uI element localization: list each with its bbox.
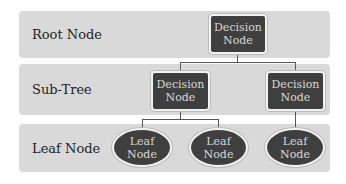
node-label: Decision Node xyxy=(157,78,205,104)
node-label: Decision Node xyxy=(214,21,262,47)
subtree-decision-node-left: Decision Node xyxy=(151,71,210,111)
subtree-decision-node-right: Decision Node xyxy=(266,71,325,111)
node-label: Leaf Node xyxy=(280,135,310,161)
leaf-node-1: Leaf Node xyxy=(112,128,172,167)
root-decision-node: Decision Node xyxy=(209,14,267,54)
node-label: Leaf Node xyxy=(204,135,234,161)
leaf-level-label: Leaf Node xyxy=(32,141,100,156)
connector xyxy=(142,119,143,128)
subtree-level-label: Sub-Tree xyxy=(32,82,92,97)
connector xyxy=(218,119,219,128)
root-level-label: Root Node xyxy=(32,27,102,42)
connector xyxy=(237,54,238,62)
connector xyxy=(142,119,219,120)
connector xyxy=(180,111,181,119)
connector xyxy=(295,62,296,71)
connector xyxy=(180,62,181,71)
leaf-node-2: Leaf Node xyxy=(189,128,248,167)
connector xyxy=(295,111,296,128)
node-label: Decision Node xyxy=(272,78,320,104)
node-label: Leaf Node xyxy=(127,135,157,161)
connector xyxy=(180,62,296,63)
leaf-node-3: Leaf Node xyxy=(265,128,325,167)
decision-tree-diagram: Root Node Sub-Tree Leaf Node Decision No… xyxy=(0,0,346,184)
